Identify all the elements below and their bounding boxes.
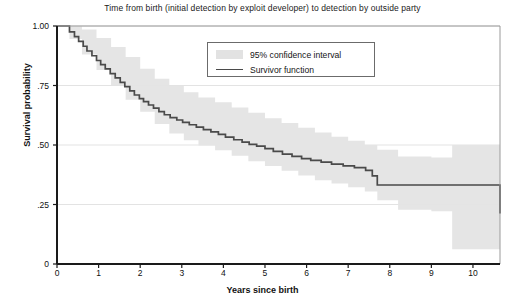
legend-item-survivor-function: Survivor function bbox=[216, 62, 368, 77]
legend-item-confidence-interval: 95% confidence interval bbox=[216, 47, 368, 62]
survivor-line-swatch-icon bbox=[216, 69, 243, 70]
legend-label-confidence-interval: 95% confidence interval bbox=[250, 50, 341, 60]
chart-legend: 95% confidence interval Survivor functio… bbox=[207, 42, 375, 77]
survival-chart-figure: Time from birth (initial detection by ex… bbox=[0, 0, 525, 304]
legend-label-survivor-function: Survivor function bbox=[250, 65, 314, 75]
confidence-band-swatch-icon bbox=[216, 50, 243, 59]
